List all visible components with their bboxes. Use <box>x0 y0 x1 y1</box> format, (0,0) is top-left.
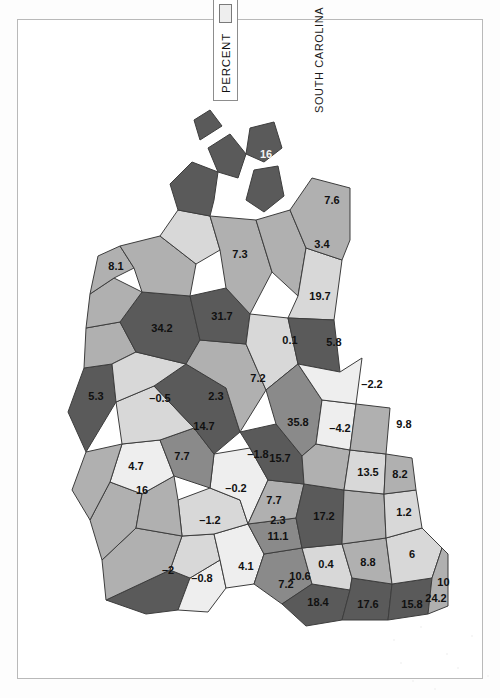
legend-title: PERCENT <box>220 33 232 93</box>
region-value-label: –1.8 <box>247 448 268 460</box>
region-value-label: 14.7 <box>193 420 214 432</box>
region-value-label: 35.8 <box>287 416 308 428</box>
state-total-annotation: SOUTH CAROLINA10.8% <box>313 0 329 113</box>
region-value-label: 5.8 <box>326 336 341 348</box>
region-value-label: 8.8 <box>360 556 375 568</box>
region-value-label: 1.2 <box>396 506 411 518</box>
region-value-label: 2.3 <box>270 514 285 526</box>
county-region <box>68 364 116 452</box>
county-region <box>342 490 386 544</box>
region-value-label: 8.2 <box>392 468 407 480</box>
region-value-label: 15.8 <box>401 598 422 610</box>
region-value-label: 6 <box>409 548 415 560</box>
region-value-label: 4.1 <box>238 560 253 572</box>
region-value-label: 10.6 <box>289 570 310 582</box>
county-region <box>246 166 284 212</box>
region-value-label: 3.4 <box>314 238 330 250</box>
region-value-label: 34.2 <box>151 322 172 334</box>
region-value-label: 13.5 <box>357 466 378 478</box>
region-value-label: 9.8 <box>396 418 411 430</box>
region-value-label: –0.2 <box>225 482 246 494</box>
county-region <box>302 444 350 490</box>
map-page: 16 –2 4.7 5.3 –0.8 7.7 –0.5 –1.2 4.1 –0.… <box>0 0 500 698</box>
legend: PERCENT LT 0 0 – 4.9 5 – 9.9 10 – 14.9 G… <box>213 0 238 101</box>
region-value-label: 16 <box>136 484 148 496</box>
region-value-label: 17.6 <box>357 598 378 610</box>
map-svg: 16 –2 4.7 5.3 –0.8 7.7 –0.5 –1.2 4.1 –0.… <box>50 20 450 640</box>
region-value-label: 7.2 <box>250 372 265 384</box>
region-value-label: –4.2 <box>329 422 350 434</box>
region-value-label: 7.7 <box>266 494 281 506</box>
region-value-label: 7.3 <box>232 248 247 260</box>
region-value-label: 10.1 <box>437 576 450 588</box>
region-value-label: –2.2 <box>361 378 382 390</box>
region-value-label: –0.5 <box>149 392 170 404</box>
region-value-label: 2.3 <box>208 390 223 402</box>
region-value-label: –2 <box>162 564 174 576</box>
region-value-label: 7.7 <box>174 450 189 462</box>
county-region <box>170 162 218 216</box>
state-name-label: SOUTH CAROLINA <box>313 7 325 113</box>
legend-swatch-lt0 <box>219 4 232 23</box>
region-value-label: 31.7 <box>211 310 232 322</box>
legend-item-lt0[interactable]: LT 0 <box>219 0 232 23</box>
region-value-label: 7.6 <box>324 194 339 206</box>
region-value-label: 0.4 <box>318 558 334 570</box>
county-region <box>194 110 222 140</box>
region-value-label: –1.2 <box>199 514 220 526</box>
region-value-label: 11.1 <box>268 530 289 542</box>
region-value-label: 19.7 <box>309 290 330 302</box>
region-value-label: 15.7 <box>269 452 290 464</box>
region-value-label: 17.2 <box>313 510 334 522</box>
county-region <box>350 404 390 454</box>
region-value-label: 16 <box>260 148 272 160</box>
region-value-label: –0.8 <box>191 572 212 584</box>
region-value-label: 24.2 <box>425 592 446 604</box>
region-value-label: 18.4 <box>307 596 329 608</box>
region-value-label: 0.1 <box>282 334 297 346</box>
choropleth-map: 16 –2 4.7 5.3 –0.8 7.7 –0.5 –1.2 4.1 –0.… <box>50 20 450 640</box>
region-value-label: 8.1 <box>108 260 123 272</box>
region-value-label: 4.7 <box>128 460 143 472</box>
region-value-label: 5.3 <box>88 390 103 402</box>
